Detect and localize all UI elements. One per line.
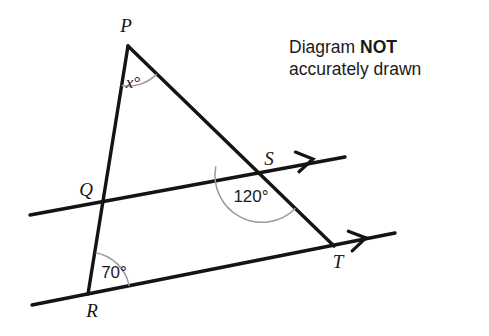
vertex-label-P: P [119, 15, 132, 36]
note-line1-prefix: Diagram [289, 37, 360, 57]
note-line1-emphasis: NOT [360, 37, 397, 57]
vertex-label-R: R [85, 300, 98, 321]
vertex-label-S: S [264, 148, 274, 169]
diagram-canvas: P Q R S T x° 120° 70° Diagram NOT accura… [0, 0, 489, 336]
angle-label-70: 70° [101, 263, 127, 282]
vertex-label-Q: Q [79, 179, 93, 200]
note-line2: accurately drawn [289, 59, 421, 79]
diagram-not-accurately-drawn-note: Diagram NOT accurately drawn [289, 36, 474, 81]
vertex-label-T: T [333, 251, 345, 272]
parallel-arrow-mark-upper-icon [295, 149, 314, 172]
line-through-Q-and-S [30, 157, 345, 215]
angle-label-x: x° [125, 73, 141, 92]
angle-label-120: 120° [233, 187, 268, 206]
